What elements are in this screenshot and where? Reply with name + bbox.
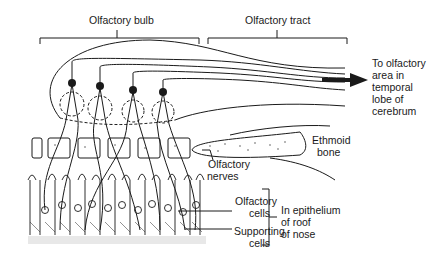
- ethmoid-label-1: Ethmoid: [312, 135, 351, 147]
- ethmoid-bone-shape: [192, 132, 306, 157]
- destination-label-2: area in: [372, 70, 404, 82]
- supporting-cells-label-1: Supporting: [234, 226, 285, 238]
- nerves-label-2: nerves: [207, 171, 239, 183]
- olfactory-bulb-label: Olfactory bulb: [89, 15, 154, 27]
- olfactory-diagram: [0, 0, 447, 257]
- nerves-label-1: Olfactory: [208, 159, 250, 171]
- destination-label-3: temporal: [372, 82, 413, 94]
- destination-label-5: cerebrum: [372, 106, 416, 118]
- olfactory-tract-label: Olfactory tract: [245, 15, 310, 27]
- ethmoid-label-2: bone: [317, 147, 340, 159]
- olfactory-cells-label-1: Olfactory: [235, 196, 277, 208]
- epithelium-label-1: In epithelium: [281, 205, 341, 217]
- destination-label-1: To olfactory: [372, 58, 426, 70]
- epithelium-label-2: of roof: [281, 217, 311, 229]
- olfactory-cells-label-2: cells: [249, 208, 270, 220]
- olfactory-tract-bracket: [208, 30, 347, 44]
- destination-label-4: lobe of: [372, 94, 404, 106]
- supporting-cells-label-2: cells: [249, 238, 270, 250]
- epithelium-label-3: of nose: [281, 229, 315, 241]
